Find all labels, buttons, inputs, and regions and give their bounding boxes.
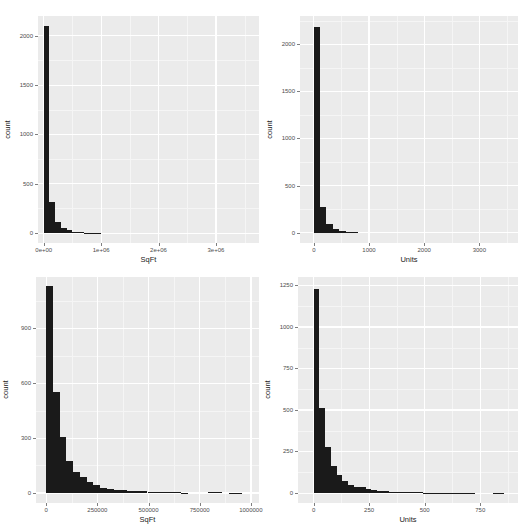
gridline-x — [101, 16, 102, 243]
gridline-x — [369, 277, 370, 503]
y-tick-mark — [297, 138, 300, 139]
gridline-minor-y — [300, 68, 518, 69]
y-tick-mark — [35, 85, 38, 86]
y-tick-label: 750 — [267, 365, 293, 371]
x-tick-mark — [46, 503, 47, 506]
x-tick-mark — [479, 243, 480, 246]
gridline-minor-y — [300, 21, 518, 22]
x-tick-label: 3000 — [457, 247, 501, 253]
histogram-units-zoomed: 0250500750100012500250500750Unitscount — [266, 265, 532, 530]
gridline-minor-x — [225, 277, 226, 503]
x-tick-label: 1e+06 — [79, 247, 123, 253]
histogram-bar — [107, 489, 114, 493]
gridline-y — [298, 326, 518, 327]
histogram-bar — [53, 392, 60, 493]
x-tick-mark — [480, 503, 481, 506]
gridline-minor-y — [38, 60, 259, 61]
histogram-bar — [314, 27, 320, 232]
histogram-bar — [60, 437, 67, 493]
histogram-bar — [134, 491, 141, 493]
x-tick-mark — [314, 503, 315, 506]
x-tick-mark — [149, 503, 150, 506]
y-tick-mark — [297, 91, 300, 92]
histogram-bar — [114, 490, 121, 493]
gridline-minor-y — [300, 115, 518, 116]
x-tick-mark — [251, 503, 252, 506]
histogram-bar — [87, 482, 94, 493]
y-tick-label: 2000 — [7, 33, 33, 39]
x-axis-title: Units — [399, 515, 416, 524]
gridline-minor-y — [298, 348, 518, 349]
y-tick-mark — [33, 383, 36, 384]
gridline-x — [158, 16, 159, 243]
histogram-bar — [46, 286, 53, 493]
histogram-bar — [80, 477, 87, 493]
x-tick-mark — [200, 503, 201, 506]
histogram-bar — [352, 232, 358, 233]
gridline-x — [148, 277, 149, 503]
y-tick-mark — [295, 368, 298, 369]
plot-area — [300, 16, 518, 243]
gridline-y — [38, 35, 259, 36]
x-tick-mark — [159, 243, 160, 246]
x-tick-mark — [97, 503, 98, 506]
y-tick-label: 2000 — [269, 41, 295, 47]
gridline-minor-y — [298, 389, 518, 390]
gridline-y — [36, 328, 259, 329]
y-tick-mark — [297, 186, 300, 187]
x-tick-label: 2000 — [402, 247, 446, 253]
plot-area — [38, 16, 259, 243]
y-tick-label: 500 — [269, 183, 295, 189]
y-tick-mark — [295, 327, 298, 328]
y-tick-mark — [295, 410, 298, 411]
histogram-bar — [100, 488, 107, 493]
x-tick-label: 0 — [292, 507, 336, 513]
y-axis-title: count — [265, 120, 274, 138]
y-tick-label: 0 — [7, 230, 33, 236]
histogram-bar — [120, 490, 127, 493]
x-tick-label: 250 — [347, 507, 391, 513]
y-tick-label: 900 — [5, 325, 31, 331]
x-tick-label: 750 — [458, 507, 502, 513]
gridline-y — [300, 91, 518, 92]
y-tick-label: 500 — [7, 181, 33, 187]
histogram-bar — [141, 491, 148, 492]
histogram-sqft-full: 05001000150020000e+001e+062e+063e+06SqFt… — [0, 0, 266, 265]
plot-area — [298, 277, 518, 503]
histogram-bar — [93, 485, 100, 493]
histogram-bar — [181, 493, 188, 494]
y-tick-label: 1500 — [269, 88, 295, 94]
gridline-x — [479, 16, 480, 243]
histogram-bar — [154, 492, 161, 493]
gridline-y — [300, 185, 518, 186]
gridline-x — [97, 277, 98, 503]
gridline-minor-y — [38, 159, 259, 160]
y-axis-title: count — [1, 380, 10, 398]
y-tick-label: 250 — [267, 448, 293, 454]
x-tick-label: 1000 — [347, 247, 391, 253]
histogram-bar — [229, 493, 236, 494]
histogram-bar — [215, 492, 222, 493]
gridline-y — [298, 285, 518, 286]
histogram-bar — [208, 492, 215, 493]
x-tick-label: 0 — [24, 507, 68, 513]
gridline-x — [424, 277, 425, 503]
x-tick-mark — [425, 503, 426, 506]
y-tick-label: 500 — [267, 407, 293, 413]
gridline-minor-x — [174, 277, 175, 503]
gridline-y — [300, 44, 518, 45]
y-tick-mark — [33, 438, 36, 439]
y-tick-mark — [295, 285, 298, 286]
y-tick-mark — [35, 134, 38, 135]
gridline-x — [250, 277, 251, 503]
y-tick-mark — [35, 184, 38, 185]
x-tick-mark — [369, 243, 370, 246]
y-tick-label: 1000 — [267, 324, 293, 330]
y-tick-label: 0 — [267, 490, 293, 496]
y-tick-mark — [295, 493, 298, 494]
plot-area — [36, 277, 259, 503]
gridline-x — [424, 16, 425, 243]
y-tick-label: 0 — [5, 490, 31, 496]
gridline-minor-y — [300, 162, 518, 163]
gridline-minor-y — [298, 431, 518, 432]
